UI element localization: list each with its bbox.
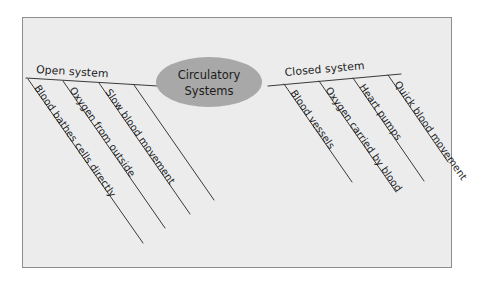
diagram-root: Circulatory Systems Open system Closed s…	[0, 0, 485, 292]
diagram-canvas-frame	[22, 17, 452, 268]
